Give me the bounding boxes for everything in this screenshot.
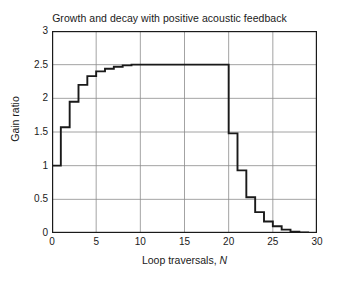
y-tick-label: 1.5 xyxy=(4,127,48,137)
gridlines xyxy=(52,31,317,233)
chart-title: Growth and decay with positive acoustic … xyxy=(0,12,339,24)
x-axis-label-variable: N xyxy=(220,254,228,266)
x-tick-label: 0 xyxy=(37,236,67,248)
x-tick-label: 30 xyxy=(302,236,332,248)
plot-area xyxy=(52,31,317,233)
x-tick-label: 10 xyxy=(125,236,155,248)
x-axis-label: Loop traversals, N xyxy=(52,254,317,266)
y-axis-tick-labels: 00.511.522.53 xyxy=(0,31,48,233)
x-tick-label: 25 xyxy=(258,236,288,248)
y-tick-label: 2 xyxy=(4,93,48,103)
y-tick-label: 2.5 xyxy=(4,60,48,70)
y-tick-label: 1 xyxy=(4,161,48,171)
y-tick-label: 3 xyxy=(4,26,48,36)
chart-figure: Growth and decay with positive acoustic … xyxy=(0,0,339,285)
x-axis-label-text: Loop traversals, xyxy=(142,254,220,266)
plot-svg xyxy=(52,31,317,233)
x-tick-label: 5 xyxy=(81,236,111,248)
x-tick-label: 20 xyxy=(214,236,244,248)
x-axis-tick-labels: 051015202530 xyxy=(52,236,317,250)
x-tick-label: 15 xyxy=(170,236,200,248)
y-tick-label: 0.5 xyxy=(4,194,48,204)
